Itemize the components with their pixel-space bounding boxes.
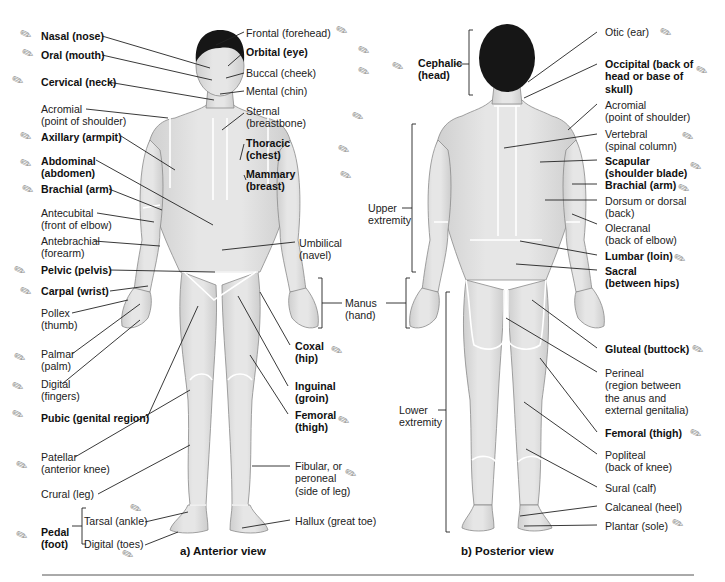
label-hallux: Hallux (great toe): [295, 515, 376, 527]
label-pollex: Pollex(thumb): [41, 307, 78, 332]
label-brachial-posterior: Brachial (arm): [605, 179, 676, 191]
label-digital-toes: Digital (toes): [84, 538, 143, 550]
label-buccal: Buccal (cheek): [246, 67, 316, 79]
label-line: (chest): [246, 149, 281, 161]
label-sural: Sural (calf): [605, 482, 656, 494]
label-brachial-anterior: Brachial (arm): [41, 183, 112, 195]
label-line: Digital: [41, 378, 70, 390]
label-patellar: Patellar(anterior knee): [41, 451, 110, 476]
label-orbital: Orbital (eye): [246, 46, 308, 58]
label-line: Acromial: [41, 103, 82, 115]
label-line: (head): [418, 69, 450, 81]
label-axillary: Axillary (armpit): [41, 131, 122, 143]
label-palmar: Palmar(palm): [41, 348, 75, 373]
label-line: Upper: [368, 202, 397, 214]
label-line: (palm): [41, 360, 71, 372]
label-line: head or base of: [605, 70, 683, 82]
label-antecubital: Antecubital(front of elbow): [41, 207, 112, 232]
label-antebrachial: Antebrachial(forearm): [41, 235, 100, 260]
label-lower-extremity: Lowerextremity: [399, 404, 442, 429]
label-gluteal: Gluteal (buttock): [605, 343, 689, 355]
label-line: Manus: [345, 297, 377, 309]
label-line: Umbilical: [299, 237, 342, 249]
label-line: (back of elbow): [605, 234, 677, 246]
label-tarsal: Tarsal (ankle): [84, 515, 148, 527]
label-line: (hand): [345, 309, 376, 321]
label-line: Antebrachial: [41, 235, 100, 247]
label-calcaneal: Calcaneal (heel): [605, 501, 682, 513]
label-line: Fibular, or: [295, 460, 342, 472]
label-line: (hip): [295, 352, 318, 364]
label-line: Popliteal: [605, 449, 646, 461]
label-line: Coxal: [295, 340, 324, 352]
label-occipital: Occipital (back ofhead or base ofskull): [605, 58, 693, 95]
label-digital-fingers: Digital(fingers): [41, 378, 80, 403]
label-upper-extremity: Upperextremity: [368, 202, 411, 227]
label-manus: Manus(hand): [345, 297, 377, 322]
label-line: (breastbone): [246, 117, 306, 129]
label-coxal: Coxal(hip): [295, 340, 324, 365]
label-line: (between hips): [605, 277, 679, 289]
label-line: Thoracic: [246, 137, 290, 149]
label-acromial-posterior: Acromial(point of shoulder): [605, 99, 690, 124]
label-line: (spinal column): [605, 140, 677, 152]
label-line: (foot): [41, 538, 68, 550]
label-crural: Crural (leg): [41, 488, 94, 500]
label-line: Perineal: [605, 367, 644, 379]
label-line: Inguinal: [295, 380, 336, 392]
label-olecranal: Olecranal(back of elbow): [605, 222, 677, 247]
label-line: Sternal: [246, 105, 280, 117]
label-frontal: Frontal (forehead): [246, 27, 331, 39]
label-line: Olecranal: [605, 222, 650, 234]
label-mammary: Mammary(breast): [246, 168, 295, 193]
label-femoral-posterior: Femoral (thigh): [605, 427, 682, 439]
label-line: Antecubital: [41, 207, 93, 219]
label-mental: Mental (chin): [246, 85, 307, 97]
label-line: (anterior knee): [41, 463, 110, 475]
label-line: the anus and: [605, 392, 666, 404]
label-line: Scapular: [605, 155, 650, 167]
label-line: (front of elbow): [41, 219, 112, 231]
label-line: (point of shoulder): [41, 115, 126, 127]
label-plantar: Plantar (sole): [605, 520, 668, 532]
caption-anterior-view: a) Anterior view: [180, 545, 266, 557]
label-line: (thigh): [295, 421, 328, 433]
label-umbilical: Umbilical(navel): [299, 237, 342, 262]
label-line: extremity: [368, 214, 411, 226]
label-line: Lower: [399, 404, 428, 416]
label-line: (back): [605, 207, 634, 219]
label-pelvic: Pelvic (pelvis): [41, 264, 112, 276]
label-line: Cephalic: [418, 57, 462, 69]
label-line: Palmar: [41, 348, 75, 360]
label-abdominal: Abdominal(abdomen): [41, 155, 96, 180]
label-line: Mammary: [246, 168, 295, 180]
label-line: external genitalia): [605, 404, 689, 416]
label-line: Femoral: [295, 409, 336, 421]
label-fibular: Fibular, orperoneal(side of leg): [295, 460, 350, 497]
label-line: (breast): [246, 180, 285, 192]
label-line: Pollex: [41, 307, 70, 319]
label-line: (point of shoulder): [605, 111, 690, 123]
label-line: Sacral: [605, 265, 637, 277]
label-nasal: Nasal (nose): [41, 30, 104, 42]
label-line: Dorsum or dorsal: [605, 195, 686, 207]
label-line: (groin): [295, 392, 329, 404]
label-cephalic: Cephalic(head): [418, 57, 462, 82]
label-line: (region between: [605, 379, 681, 391]
caption-posterior-view: b) Posterior view: [461, 545, 554, 557]
label-line: (fingers): [41, 390, 80, 402]
label-scapular: Scapular(shoulder blade): [605, 155, 687, 180]
posterior-head-hair: [479, 24, 535, 92]
label-dorsum: Dorsum or dorsal(back): [605, 195, 686, 220]
label-cervical: Cervical (neck): [41, 76, 116, 88]
label-acromial-anterior: Acromial(point of shoulder): [41, 103, 126, 128]
label-pubic: Pubic (genital region): [41, 412, 149, 424]
label-line: (back of knee): [605, 461, 672, 473]
label-line: (navel): [299, 249, 331, 261]
label-line: Acromial: [605, 99, 646, 111]
label-line: extremity: [399, 416, 442, 428]
label-sternal: Sternal(breastbone): [246, 105, 306, 130]
label-popliteal: Popliteal(back of knee): [605, 449, 672, 474]
label-line: Patellar: [41, 451, 77, 463]
label-line: (side of leg): [295, 485, 350, 497]
